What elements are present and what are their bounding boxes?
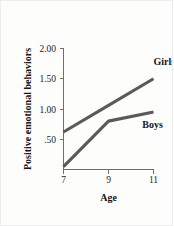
series-label-girls: Girls: [154, 56, 174, 67]
y-tick-label-2.00: 2.00: [39, 44, 56, 54]
y-tick-label-0.50: .50: [44, 135, 56, 145]
y-tick-label-1.50: 1.50: [39, 74, 56, 84]
line-chart: 2.00 1.50 1.00 .50 7 9 11 Girls Boys Age…: [1, 1, 173, 226]
y-axis-title: Positive emotional behaviors: [22, 48, 33, 170]
x-tick-label-9: 9: [106, 175, 111, 185]
y-tick-marks: [60, 49, 64, 140]
chart-figure: 2.00 1.50 1.00 .50 7 9 11 Girls Boys Age…: [0, 0, 173, 226]
x-tick-label-11: 11: [149, 175, 158, 185]
series-line-girls: [64, 79, 154, 132]
y-tick-label-1.00: 1.00: [39, 105, 56, 115]
x-tick-label-7: 7: [61, 175, 66, 185]
x-axis-title: Age: [100, 192, 117, 203]
x-tick-marks: [64, 170, 154, 174]
series-line-boys: [64, 112, 154, 166]
series-label-boys: Boys: [142, 119, 163, 130]
